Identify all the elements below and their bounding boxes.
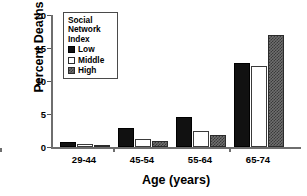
- y-tick-label: 15: [26, 44, 46, 53]
- bar-high: [268, 35, 284, 147]
- bar-low: [234, 63, 250, 147]
- legend-label: Middle: [78, 56, 104, 65]
- y-axis-tick-labels: 20 15 10 5 0: [24, 0, 46, 196]
- legend-swatch-low: [68, 46, 75, 53]
- legend-item-high: High: [68, 66, 112, 75]
- x-axis-title: Age (years): [51, 173, 301, 187]
- legend: Social Network Index Low Middle High: [63, 12, 118, 79]
- x-axis-line: [51, 147, 301, 149]
- y-tick-label: 5: [26, 110, 46, 119]
- x-tick-label: 55-64: [170, 154, 230, 165]
- bar-chart: Percent Deaths 20 15 10 5 0: [0, 0, 307, 196]
- bar-middle: [135, 139, 151, 147]
- x-tick-label: 29-44: [54, 154, 114, 165]
- legend-title: Social Network Index: [68, 16, 112, 44]
- x-tick-label: 65-74: [228, 154, 288, 165]
- y-tick-label: 0: [26, 143, 46, 152]
- legend-label: High: [78, 66, 96, 75]
- x-tick-mark: [229, 148, 231, 152]
- bar-low: [60, 142, 76, 147]
- bar-low: [118, 128, 134, 147]
- bar-middle: [251, 66, 267, 147]
- legend-swatch-high: [68, 67, 75, 74]
- bar-middle: [193, 131, 209, 147]
- bar-high: [152, 141, 168, 147]
- bar-middle: [77, 144, 93, 147]
- legend-swatch-middle: [68, 57, 75, 64]
- x-tick-mark: [113, 148, 115, 152]
- x-tick-mark: [0, 148, 2, 152]
- x-tick-label: 45-54: [112, 154, 172, 165]
- bar-high: [210, 135, 226, 147]
- legend-label: Low: [78, 45, 95, 54]
- y-tick-label: 20: [26, 11, 46, 20]
- y-tick-label: 10: [26, 77, 46, 86]
- legend-item-low: Low: [68, 45, 112, 54]
- legend-item-middle: Middle: [68, 56, 112, 65]
- bar-high: [94, 145, 110, 147]
- bar-low: [176, 117, 192, 147]
